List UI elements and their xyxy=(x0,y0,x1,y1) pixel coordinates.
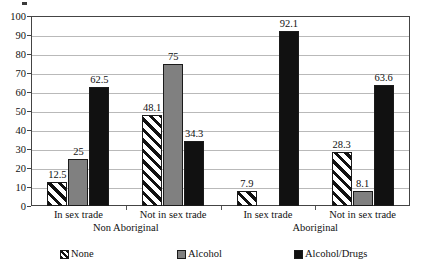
bar-none xyxy=(142,115,162,206)
legend-swatch-none-icon xyxy=(60,250,69,259)
x-axis-separator xyxy=(315,206,316,210)
y-axis-tick-label: 20 xyxy=(0,163,26,174)
x-axis-category-label: Not in sex trade xyxy=(126,209,221,221)
legend-swatch-alcohol-icon xyxy=(177,250,186,259)
legend-item[interactable]: None xyxy=(60,248,94,260)
legend-swatch-drugs-icon xyxy=(294,250,303,259)
y-axis-tick-label: 90 xyxy=(0,30,26,41)
x-axis-group-label: Aboriginal xyxy=(221,222,411,234)
chart-legend: NoneAlcoholAlcohol/Drugs xyxy=(31,248,410,264)
x-axis-group-label: Non Aboriginal xyxy=(31,222,221,234)
bar-value-label: 28.3 xyxy=(323,139,361,150)
x-axis-category-label: In sex trade xyxy=(221,209,316,221)
bar-value-label: 62.5 xyxy=(80,74,118,85)
bar-drugs xyxy=(184,141,204,206)
bar-value-label: 63.6 xyxy=(365,72,403,83)
bar-alcohol xyxy=(353,191,373,206)
bar-alcohol xyxy=(68,159,88,207)
bar-group: 28.38.163.6 xyxy=(315,16,410,206)
bar-none xyxy=(47,182,67,206)
bar-drugs xyxy=(279,31,299,206)
bar-value-label: 34.3 xyxy=(175,128,213,139)
x-axis-separator xyxy=(126,206,127,210)
y-axis-tick-mark xyxy=(27,206,31,207)
y-axis-tick-label: 100 xyxy=(0,11,26,22)
stray-tick-artifact xyxy=(22,2,27,5)
bar-value-label: 92.1 xyxy=(270,18,308,29)
legend-label: None xyxy=(71,248,94,260)
x-axis-categories: In sex tradeNot in sex tradeIn sex trade… xyxy=(31,209,410,243)
legend-label: Alcohol/Drugs xyxy=(305,248,367,260)
bar-group: 7.992.1 xyxy=(221,16,316,206)
y-axis-tick-label: 80 xyxy=(0,49,26,60)
legend-item[interactable]: Alcohol/Drugs xyxy=(294,248,367,260)
y-axis-tick-label: 30 xyxy=(0,144,26,155)
bar-chart: 1009080706050403020100 12.52562.548.1753… xyxy=(0,0,431,270)
bar-value-label: 7.9 xyxy=(228,178,266,189)
legend-item[interactable]: Alcohol xyxy=(177,248,222,260)
bar-groups: 12.52562.548.17534.37.992.128.38.163.6 xyxy=(31,16,410,206)
y-axis-tick-label: 60 xyxy=(0,87,26,98)
y-axis-tick-label: 70 xyxy=(0,68,26,79)
y-axis-tick-label: 10 xyxy=(0,182,26,193)
y-axis-tick-label: 50 xyxy=(0,106,26,117)
bar-value-label: 75 xyxy=(154,51,192,62)
x-axis-separator xyxy=(221,206,222,210)
bar-drugs xyxy=(89,87,109,206)
y-axis-tick-label: 0 xyxy=(0,201,26,212)
x-axis-category-label: In sex trade xyxy=(31,209,126,221)
bar-group: 12.52562.5 xyxy=(31,16,126,206)
x-axis-category-label: Not in sex trade xyxy=(315,209,410,221)
y-axis: 1009080706050403020100 xyxy=(0,16,29,206)
bar-none xyxy=(237,191,257,206)
y-axis-tick-label: 40 xyxy=(0,125,26,136)
bar-drugs xyxy=(374,85,394,206)
legend-label: Alcohol xyxy=(188,248,222,260)
bar-group: 48.17534.3 xyxy=(126,16,221,206)
